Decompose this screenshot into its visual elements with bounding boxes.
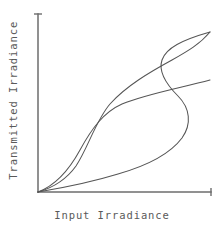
figure-container: Transmitted Irradiance Input Irradiance [0, 0, 224, 237]
optical-bistability-chart [0, 0, 224, 237]
curve-bistable [38, 32, 210, 192]
y-axis-label: Transmitted Irradiance [8, 21, 19, 180]
curve-saturating [38, 80, 210, 192]
curve-sigmoid [38, 32, 210, 192]
y-axis-label-container: Transmitted Irradiance [0, 0, 26, 200]
x-axis-label: Input Irradiance [0, 210, 224, 221]
chart-curves [38, 32, 210, 192]
